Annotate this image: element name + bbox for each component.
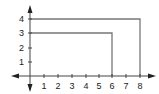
y-label-3: 3 [19, 28, 24, 38]
x-label-4: 4 [83, 81, 88, 91]
y-label-4: 4 [19, 14, 24, 24]
y-label-1: 1 [19, 57, 24, 67]
x-axis-left-arrow-icon [11, 74, 19, 79]
x-tick-labels: 1 2 3 4 5 6 7 8 [41, 81, 142, 91]
rect-6-by-3 [30, 33, 112, 76]
y-axis-down-arrow-icon [28, 84, 33, 92]
rect-8-by-4 [30, 19, 140, 76]
x-label-3: 3 [69, 81, 74, 91]
x-label-2: 2 [55, 81, 60, 91]
coordinate-diagram: 1 2 3 4 5 6 7 8 1 2 3 4 [0, 0, 159, 94]
x-label-5: 5 [96, 81, 101, 91]
y-tick-labels: 1 2 3 4 [19, 14, 24, 67]
x-label-1: 1 [41, 81, 46, 91]
x-label-6: 6 [109, 81, 114, 91]
x-axis-right-arrow-icon [148, 74, 156, 79]
y-label-2: 2 [19, 43, 24, 53]
x-label-7: 7 [123, 81, 128, 91]
y-axis-up-arrow-icon [28, 5, 33, 13]
x-label-8: 8 [137, 81, 142, 91]
